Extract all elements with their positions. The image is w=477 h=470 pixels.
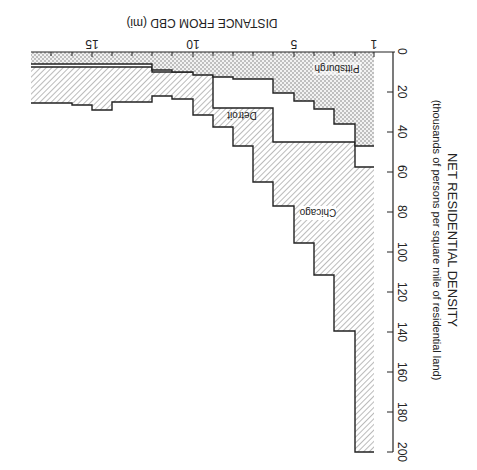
y-tick-0: 0 xyxy=(395,48,409,55)
y-axis-title: NET RESIDENTIAL DENSITY xyxy=(445,153,460,327)
label-detroit: Detroit xyxy=(227,110,257,121)
y-tick-100: 100 xyxy=(395,242,409,262)
y-tick-120: 120 xyxy=(395,282,409,302)
y-tick-80: 80 xyxy=(395,205,409,219)
x-tick-10: 10 xyxy=(186,37,200,51)
x-tick-15: 15 xyxy=(85,37,99,51)
y-axis-ticks xyxy=(387,92,393,452)
y-tick-20: 20 xyxy=(395,85,409,99)
y-tick-180: 180 xyxy=(395,402,409,422)
label-pittsburgh: Pittsburgh xyxy=(314,63,359,74)
label-chicago: Chicago xyxy=(299,207,336,218)
x-tick-5: 5 xyxy=(290,37,297,51)
y-tick-200: 200 xyxy=(395,442,409,462)
density-chart: 1 5 10 15 DISTANCE FROM CBD (mi) 0 20 40… xyxy=(0,0,477,470)
x-axis-title: DISTANCE FROM CBD (mi) xyxy=(126,16,277,30)
x-tick-1: 1 xyxy=(370,37,377,51)
y-tick-160: 160 xyxy=(395,362,409,382)
y-tick-40: 40 xyxy=(395,125,409,139)
y-tick-60: 60 xyxy=(395,165,409,179)
y-tick-140: 140 xyxy=(395,322,409,342)
y-axis-subtitle: (thousands of persons per square mile of… xyxy=(431,100,443,381)
